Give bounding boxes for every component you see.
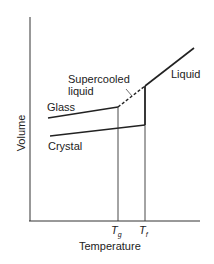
x-axis-label: Temperature <box>79 240 141 252</box>
glass-label: Glass <box>47 101 75 113</box>
supercooled-label-line2: liquid <box>68 85 130 97</box>
y-axis-label: Volume <box>15 112 27 154</box>
supercooled-label: Supercooled liquid <box>68 73 130 97</box>
supercooled-label-line1: Supercooled <box>68 73 130 85</box>
tf-subscript: f <box>146 231 148 238</box>
tg-tick-label: Tg <box>111 224 122 238</box>
tf-tick-label: Tf <box>139 224 148 238</box>
tg-symbol: T <box>111 224 118 236</box>
liquid-line <box>145 48 194 86</box>
volume-temperature-diagram <box>0 0 214 264</box>
liquid-label: Liquid <box>171 68 200 80</box>
tg-subscript: g <box>118 231 122 238</box>
crystal-label: Crystal <box>48 140 82 152</box>
crystal-line <box>50 125 145 136</box>
tf-symbol: T <box>139 224 146 236</box>
